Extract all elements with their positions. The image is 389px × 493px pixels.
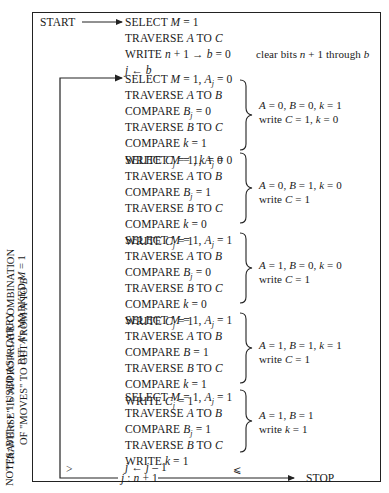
operation-line: TRAVERSE B TO C (125, 281, 223, 295)
init-line-2: TRAVERSE A TO C (125, 31, 223, 45)
operation-line: TRAVERSE A TO B (125, 406, 222, 420)
group-comment: write k = 1 (259, 422, 308, 436)
braces (240, 80, 252, 452)
operation-line: COMPARE Bj = 0 (125, 265, 211, 279)
group-comment: write C = 1 (259, 192, 310, 206)
group-comment: write C = 1 (259, 272, 310, 286)
operation-line: TRAVERSE B TO C (125, 201, 223, 215)
notes-col-a: NOTES: BIT n + 1 USED AS k–CARRY (4, 312, 16, 486)
group-comment: A = 1, B = 0, k = 0 (259, 258, 342, 272)
operation-line: TRAVERSE A TO B (125, 88, 222, 102)
loop-compare: j : n + 1 (121, 471, 158, 485)
group-comment: A = 0, B = 0, k = 1 (259, 98, 342, 112)
operation-line: TRAVERSE B TO C (125, 438, 223, 452)
group-comment: write C = 1 (259, 352, 310, 366)
operation-line: COMPARE Bj = 0 (125, 104, 211, 118)
operation-line: SELECT M = 1, Aj = 1 (125, 233, 232, 247)
operation-line: TRAVERSE A TO B (125, 249, 222, 263)
init-line-1: SELECT M = 1 (125, 15, 199, 29)
operation-line: SELECT M = 1, Aj = 0 (125, 153, 232, 167)
group-comment: A = 1, B = 1, k = 1 (259, 338, 342, 352)
operation-line: TRAVERSE B TO C (125, 120, 223, 134)
stop-label: STOP (306, 471, 334, 485)
init-line-3: WRITE n + 1 → b = 0 (125, 47, 231, 61)
group-comment: A = 1, B = 1 (259, 408, 314, 422)
operation-line: TRAVERSE A TO B (125, 329, 222, 343)
operation-line: COMPARE k = 0 (125, 217, 207, 231)
gt-symbol: > (66, 462, 73, 476)
operation-line: COMPARE k = 1 (125, 136, 207, 150)
operation-line: SELECT M = 1, Aj = 1 (125, 390, 232, 404)
operation-line: TRAVERSE A TO B (125, 169, 222, 183)
operation-line: SELECT M = 1, Aj = 0 (125, 72, 232, 86)
notes-col-b: BIT. A's MARKED M = 1 (16, 255, 28, 365)
operation-line: TRAVERSE B TO C (125, 361, 223, 375)
init-comment: clear bits n + 1 through b (256, 47, 369, 61)
group-comment: A = 0, B = 1, k = 0 (259, 178, 342, 192)
operation-line: COMPARE k = 0 (125, 297, 207, 311)
operation-line: SELECT M = 1, Aj = 1 (125, 313, 232, 327)
operation-line: COMPARE Bj = 1 (125, 422, 211, 436)
operation-line: COMPARE B = 1 (125, 345, 209, 359)
loop-back-arrow (60, 78, 122, 478)
group-comment: write C = 1, k = 0 (259, 112, 338, 126)
start-label: START (40, 15, 75, 29)
operation-line: COMPARE Bj = 1 (125, 185, 211, 199)
le-symbol: ⩽ (233, 463, 241, 477)
